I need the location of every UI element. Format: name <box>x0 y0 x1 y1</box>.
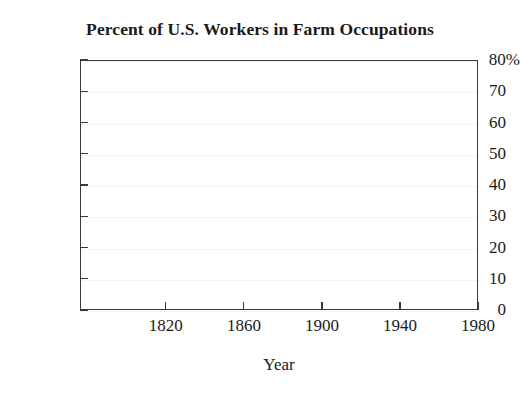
x-axis-tick-mark <box>243 302 244 310</box>
y-axis-tick-mark <box>80 278 88 279</box>
x-axis-title: Year <box>80 355 478 374</box>
y-axis-tick-label: 20 <box>460 239 520 256</box>
y-axis-tick-mark <box>80 59 88 60</box>
y-axis-tick-value: 10 <box>489 270 506 287</box>
y-axis-tick-value: 30 <box>489 207 506 224</box>
y-axis-unit-suffix: % <box>506 51 520 68</box>
chart-figure: Percent of U.S. Workers in Farm Occupati… <box>0 0 520 395</box>
y-axis-tick-label: 10 <box>460 270 520 287</box>
y-axis-tick-value: 20 <box>489 239 506 256</box>
y-axis-tick-mark <box>80 184 88 185</box>
y-axis-tick-mark <box>80 153 88 154</box>
y-axis-tick-mark <box>80 91 88 92</box>
x-axis-tick-mark <box>321 302 322 310</box>
x-axis-tick-label: 1820 <box>121 316 211 335</box>
y-axis-tick-mark <box>80 216 88 217</box>
x-axis-tick-label: 1900 <box>277 316 367 335</box>
y-axis-tick-label: 50 <box>460 145 520 162</box>
y-axis-tick-label: 40 <box>460 176 520 193</box>
x-axis-tick-label: 1940 <box>355 316 445 335</box>
y-axis-tick-value: 40 <box>489 176 506 193</box>
y-axis-tick-value: 60 <box>489 114 506 131</box>
y-axis-tick-value: 70 <box>489 82 506 99</box>
x-axis-tick-label: 1860 <box>199 316 289 335</box>
y-axis-tick-mark <box>80 309 88 310</box>
y-axis-tick-mark <box>80 247 88 248</box>
x-axis-tick-mark <box>165 302 166 310</box>
y-axis-tick-value: 50 <box>489 145 506 162</box>
y-axis-tick-label: 70 <box>460 82 520 99</box>
y-axis-tick-label: 30 <box>460 207 520 224</box>
y-axis-tick-label: 80% <box>460 51 520 68</box>
y-axis <box>0 0 80 395</box>
y-axis-tick-label: 60 <box>460 114 520 131</box>
x-axis-tick-mark <box>399 302 400 310</box>
x-axis-tick-mark <box>477 302 478 310</box>
gridline <box>81 311 477 312</box>
y-axis-tick-value: 80 <box>489 51 506 68</box>
data-series-layer <box>81 61 477 309</box>
y-axis-tick-mark <box>80 122 88 123</box>
plot-area <box>80 60 478 310</box>
x-axis-tick-label: 1980 <box>433 316 520 335</box>
